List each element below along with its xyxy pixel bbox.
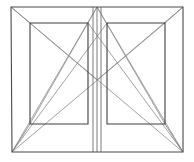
- wireframe-drawing: [0, 0, 194, 162]
- figure-canvas: [0, 0, 194, 162]
